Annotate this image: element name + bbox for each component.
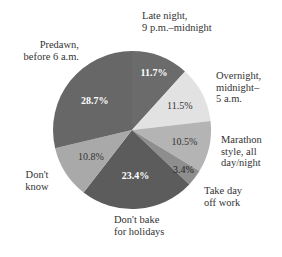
slice-value-label: 3.4% [173,164,194,175]
slice-value-label: 11.7% [141,67,168,78]
label-line: 9 p.m.–midnight [142,22,212,34]
label-line: Take day [204,185,242,197]
label-line: Late night, [142,10,212,22]
slice-value-label: 10.5% [172,136,198,147]
label-line: Overnight, [216,70,261,82]
label-line: Predawn, [24,39,79,51]
slice-value-label: 23.4% [122,170,150,181]
label-line: style, all [221,146,262,158]
label-predawn: Predawn, before 6 a.m. [24,39,79,62]
label-line: Don't bake [114,214,164,226]
label-line: off work [204,197,242,209]
label-dont-know: Don't know [18,169,56,192]
label-line: for holidays [114,226,164,238]
label-line: midnight– [216,82,261,94]
label-take-day-off: Take day off work [204,185,242,208]
slice-value-label: 11.5% [167,100,192,111]
slice-value-label: 28.7% [81,95,109,106]
label-line: Marathon [221,134,262,146]
label-late-night: Late night, 9 p.m.–midnight [142,10,212,33]
label-line: Don't [18,169,56,181]
label-marathon: Marathon style, all day/night [221,134,262,169]
label-line: before 6 a.m. [24,51,79,63]
label-line: day/night [221,157,262,169]
label-line: know [18,181,56,193]
label-dont-bake: Don't bake for holidays [114,214,164,237]
label-overnight: Overnight, midnight– 5 a.m. [216,70,261,105]
pie-slices [53,51,211,209]
slice-value-label: 10.8% [78,151,104,162]
label-line: 5 a.m. [216,93,261,105]
